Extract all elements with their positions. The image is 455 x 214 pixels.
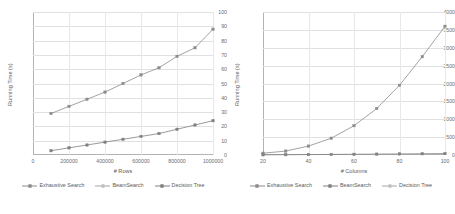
series-line — [51, 121, 213, 151]
gridline-vertical — [445, 12, 446, 155]
legend-square-icon — [161, 184, 164, 187]
data-point-marker — [212, 119, 214, 121]
legend-square-icon — [28, 184, 31, 187]
data-point-marker — [285, 150, 287, 152]
x-tick-label: 800000 — [168, 158, 185, 164]
data-point-marker — [353, 153, 355, 155]
series-lines — [33, 12, 213, 155]
plot-area-rows — [33, 12, 213, 155]
data-point-marker — [122, 138, 124, 140]
data-point-marker — [50, 112, 52, 114]
data-point-marker — [330, 153, 332, 155]
series-line — [51, 29, 213, 113]
data-point-marker — [176, 55, 178, 57]
legend-label: BeamSearch — [112, 182, 143, 189]
data-point-marker — [398, 153, 400, 155]
legend-square-icon — [329, 184, 332, 187]
data-point-marker — [158, 67, 160, 69]
x-tick-label: 0 — [32, 158, 35, 164]
data-point-marker — [262, 154, 264, 156]
legend-item[interactable]: BeamSearch — [95, 182, 143, 189]
y-axis-title: Running Time (s) — [234, 63, 240, 106]
legend-marker-icon — [95, 183, 110, 189]
legend-label: Decision Tree — [172, 182, 205, 189]
data-point-marker — [376, 107, 378, 109]
chart-legend-rows: Exhaustive SearchBeamSearchDecision Tree — [0, 182, 227, 189]
legend-item[interactable]: BeamSearch — [323, 182, 371, 189]
x-tick-label: 20 — [260, 158, 266, 164]
data-point-marker — [330, 137, 332, 139]
data-point-marker — [444, 152, 446, 154]
data-point-marker — [68, 105, 70, 107]
legend-square-icon — [256, 184, 259, 187]
data-point-marker — [285, 154, 287, 156]
data-point-marker — [140, 135, 142, 137]
data-point-marker — [444, 25, 446, 27]
legend-square-icon — [101, 184, 104, 187]
x-axis-title: # Rows — [33, 168, 213, 174]
legend-label: Exhaustive Search — [39, 182, 84, 189]
legend-square-icon — [388, 184, 391, 187]
data-point-marker — [398, 84, 400, 86]
data-point-marker — [421, 55, 423, 57]
x-axis-title: # Columns — [263, 168, 445, 174]
chart-legend-columns: Exhaustive SearchBeamSearchDecision Tree — [227, 182, 455, 189]
figure-row: Running Time (s) 0102030405060708090100 … — [0, 0, 455, 214]
gridline-vertical — [213, 12, 214, 155]
x-tick-label: 80 — [397, 158, 403, 164]
x-tick-label: 60 — [351, 158, 357, 164]
legend-marker-icon — [250, 183, 265, 189]
legend-label: Decision Tree — [399, 182, 432, 189]
x-tick-label: 1000000 — [203, 158, 223, 164]
data-point-marker — [50, 150, 52, 152]
legend-label: BeamSearch — [340, 182, 371, 189]
data-point-marker — [104, 91, 106, 93]
legend-item[interactable]: Exhaustive Search — [250, 182, 312, 189]
data-point-marker — [307, 145, 309, 147]
legend-marker-icon — [382, 183, 397, 189]
x-tick-label: 100 — [441, 158, 450, 164]
legend-item[interactable]: Exhaustive Search — [22, 182, 84, 189]
data-point-marker — [176, 128, 178, 130]
x-tick-label: 200000 — [60, 158, 77, 164]
legend-marker-icon — [323, 183, 338, 189]
series-line — [263, 26, 445, 153]
data-point-marker — [307, 153, 309, 155]
legend-marker-icon — [22, 183, 37, 189]
data-point-marker — [86, 144, 88, 146]
y-axis-title: Running Time (s) — [7, 63, 13, 106]
legend-item[interactable]: Decision Tree — [155, 182, 205, 189]
legend-label: Exhaustive Search — [267, 182, 312, 189]
data-point-marker — [376, 153, 378, 155]
data-point-marker — [421, 153, 423, 155]
data-point-marker — [104, 141, 106, 143]
data-point-marker — [122, 82, 124, 84]
data-point-marker — [140, 74, 142, 76]
series-lines — [263, 12, 445, 155]
data-point-marker — [194, 124, 196, 126]
chart-panel-rows: Running Time (s) 0102030405060708090100 … — [0, 0, 227, 214]
x-tick-label: 40 — [306, 158, 312, 164]
data-point-marker — [86, 98, 88, 100]
data-point-marker — [158, 132, 160, 134]
data-point-marker — [194, 47, 196, 49]
legend-item[interactable]: Decision Tree — [382, 182, 432, 189]
x-tick-label: 600000 — [132, 158, 149, 164]
plot-area-columns — [263, 12, 445, 155]
data-point-marker — [353, 124, 355, 126]
legend-marker-icon — [155, 183, 170, 189]
data-point-marker — [68, 147, 70, 149]
x-tick-label: 400000 — [96, 158, 113, 164]
data-point-marker — [212, 28, 214, 30]
chart-panel-columns: Running Time (s) 05001000150020002500300… — [227, 0, 455, 214]
